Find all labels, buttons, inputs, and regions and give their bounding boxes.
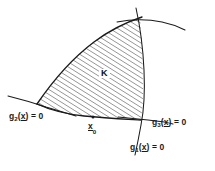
g3-rhs: = 0 <box>174 117 186 127</box>
constraint-label-g1: g1(x) = 0 <box>130 142 164 152</box>
g3-argument: x <box>164 118 169 127</box>
g2-rhs: = 0 <box>31 111 43 121</box>
constraint-label-g3: g3(x) = 0 <box>152 117 186 127</box>
g2-argument: x <box>21 112 26 121</box>
point-label-x0: x0 <box>87 121 97 133</box>
g1-rhs: = 0 <box>152 142 164 152</box>
constraint-region-diagram: g2(x) = 0 g3(x) = 0 g1(x) = 0 K x0 <box>0 0 215 171</box>
g1-subscript: 1 <box>135 146 139 153</box>
point-x0-marker <box>92 116 95 119</box>
constraint-label-g2: g2(x) = 0 <box>9 111 43 121</box>
g1-argument: x <box>142 143 147 152</box>
region-label-k: K <box>99 69 110 78</box>
g3-subscript: 3 <box>157 121 161 128</box>
x0-subscript: 0 <box>93 128 96 135</box>
g2-subscript: 2 <box>14 115 18 122</box>
diagram-canvas <box>0 0 215 171</box>
region-fill-hatching <box>0 0 215 171</box>
